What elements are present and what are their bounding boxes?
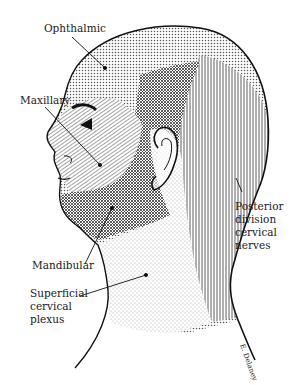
label-posterior-division-cervical-nerves: Posterior division cervical nerves <box>235 200 284 252</box>
head-illustration: E. Delaney <box>0 0 292 385</box>
label-ophthalmic: Ophthalmic <box>44 22 106 35</box>
head-neck-dermatome-diagram: E. Delaney Ophthalmic Maxillary Mandibul… <box>0 0 292 385</box>
label-mandibular: Mandibular <box>32 259 94 272</box>
label-superficial-cervical-plexus: Superficial cervical plexus <box>30 287 88 326</box>
label-maxillary: Maxillary <box>20 94 70 107</box>
artist-signature: E. Delaney <box>238 343 259 382</box>
